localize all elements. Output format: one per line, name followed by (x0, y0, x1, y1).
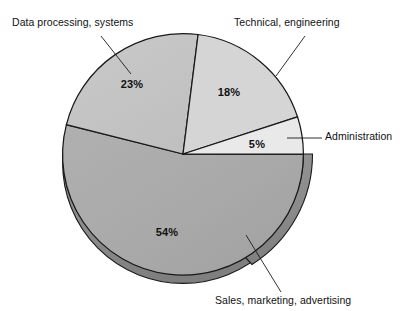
pie-value-label-sales: 54% (156, 226, 179, 238)
pie-chart-figure: 23% 18% 5% 54% Data processing, systems … (0, 0, 413, 311)
pie-category-label-technical-engineering: Technical, engineering (234, 16, 340, 28)
pie-category-label-administration: Administration (325, 130, 392, 142)
pie-value-label-data-processing: 23% (121, 78, 144, 90)
leader-line-technical (276, 36, 305, 76)
pie-value-label-technical: 18% (218, 86, 241, 98)
pie-category-label-data-processing-systems: Data processing, systems (12, 16, 133, 28)
pie-value-label-administration: 5% (249, 138, 265, 150)
pie-category-label-sales-marketing-advertising: Sales, marketing, advertising (215, 294, 351, 306)
pie-chart-canvas: 23% 18% 5% 54% (0, 0, 413, 311)
